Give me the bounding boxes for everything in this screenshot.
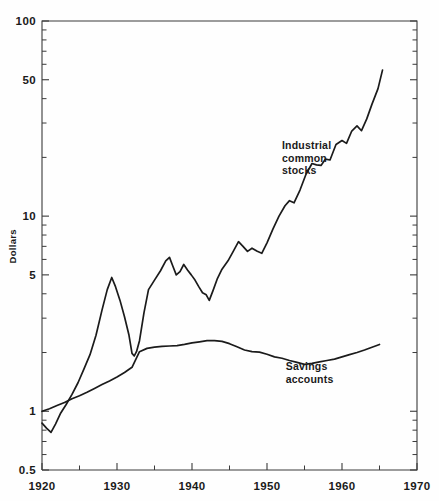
x-tick-label: 1930: [103, 480, 130, 492]
annotation-savings-accounts: Savings: [286, 360, 328, 372]
annotation-industrial-common-stocks: stocks: [282, 164, 316, 176]
log-line-chart: 0.5151050100192019301940195019601970 Ind…: [0, 0, 439, 501]
y-axis-title-text: Dollars: [7, 229, 18, 263]
y-tick-label: 1: [29, 405, 36, 417]
axis-ticks: [42, 21, 417, 470]
y-tick-label: 0.5: [19, 464, 36, 476]
x-tick-label: 1950: [253, 480, 280, 492]
x-tick-label: 1920: [28, 480, 55, 492]
x-tick-label: 1940: [178, 480, 205, 492]
x-tick-label: 1960: [328, 480, 355, 492]
series-annotations: IndustrialcommonstocksSavingsaccounts: [282, 139, 333, 385]
annotation-industrial-common-stocks: Industrial: [282, 139, 331, 151]
y-tick-label: 10: [22, 210, 36, 222]
axes: [42, 21, 417, 470]
plot-frame: [42, 21, 417, 470]
annotation-industrial-common-stocks: common: [282, 152, 327, 164]
x-tick-label: 1970: [403, 480, 430, 492]
y-tick-label: 100: [16, 15, 36, 27]
y-tick-label: 5: [29, 269, 36, 281]
annotation-savings-accounts: accounts: [286, 373, 334, 385]
chart-figure: 0.5151050100192019301940195019601970 Ind…: [0, 0, 439, 501]
y-axis-label: Dollars: [7, 229, 18, 263]
axis-tick-labels: 0.5151050100192019301940195019601970: [16, 15, 431, 492]
y-tick-label: 50: [22, 74, 36, 86]
